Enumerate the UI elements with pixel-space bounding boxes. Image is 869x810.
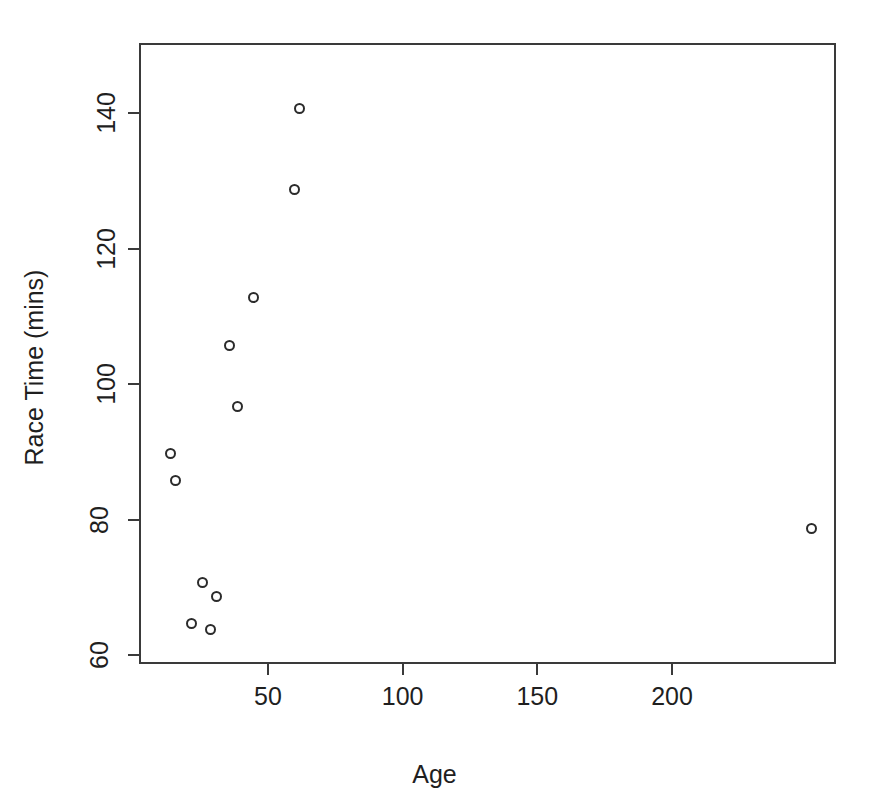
y-tick-mark <box>128 654 139 656</box>
x-tick-label: 100 <box>382 682 424 711</box>
data-point <box>248 292 259 303</box>
x-tick-mark <box>671 664 673 675</box>
data-point <box>806 523 817 534</box>
x-axis-title: Age <box>0 760 869 789</box>
y-tick-mark <box>128 519 139 521</box>
data-point <box>294 103 305 114</box>
chart-canvas: Race Time (mins) vs Age [scatterplot] 50… <box>0 0 869 810</box>
data-point <box>232 401 243 412</box>
data-point <box>186 618 197 629</box>
data-point <box>289 184 300 195</box>
data-point <box>211 591 222 602</box>
y-tick-label: 120 <box>92 228 121 270</box>
x-tick-label: 200 <box>651 682 693 711</box>
y-axis-title: Race Time (mins) <box>20 268 49 468</box>
y-tick-label: 140 <box>92 92 121 134</box>
y-tick-mark <box>128 112 139 114</box>
plot-frame <box>139 43 836 664</box>
y-tick-label: 100 <box>92 363 121 405</box>
plot-area <box>141 45 834 662</box>
x-tick-mark <box>267 664 269 675</box>
y-tick-label: 80 <box>85 506 114 534</box>
y-tick-label: 60 <box>85 641 114 669</box>
x-tick-mark <box>536 664 538 675</box>
x-tick-label: 150 <box>516 682 558 711</box>
data-point <box>165 448 176 459</box>
y-tick-mark <box>128 383 139 385</box>
data-point <box>224 340 235 351</box>
data-point <box>170 475 181 486</box>
data-point <box>197 577 208 588</box>
x-tick-label: 50 <box>254 682 282 711</box>
x-tick-mark <box>402 664 404 675</box>
y-tick-mark <box>128 248 139 250</box>
data-point <box>205 624 216 635</box>
